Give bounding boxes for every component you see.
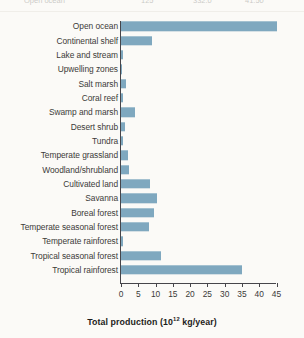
x-axis-title-prefix: Total production (10 — [87, 317, 173, 327]
bar-track — [121, 165, 129, 174]
bar-track — [121, 65, 122, 74]
bar — [121, 208, 154, 217]
bar-track — [121, 108, 135, 117]
bar-track — [121, 194, 157, 203]
bar-row: Cultivated land — [0, 177, 304, 191]
bar — [121, 50, 123, 59]
category-label: Temperate rainforest — [42, 236, 118, 246]
x-axis-tick — [207, 283, 208, 287]
bar-track — [121, 136, 123, 145]
category-label: Woodland/shrubland — [42, 165, 118, 175]
x-axis-tick-label: 25 — [203, 289, 212, 299]
x-axis: 051015202530354045 — [0, 283, 304, 313]
category-label: Temperate seasonal forest — [21, 222, 118, 232]
x-axis-tick-label: 30 — [220, 289, 229, 299]
bar-row: Temperate seasonal forest — [0, 220, 304, 234]
x-axis-tick-label: 35 — [237, 289, 246, 299]
bar-track — [121, 237, 123, 246]
bar — [121, 21, 277, 30]
category-label: Upwelling zones — [58, 64, 118, 74]
bar-row: Savanna — [0, 191, 304, 205]
category-label: Continental shelf — [56, 36, 118, 46]
bar-row: Lake and stream — [0, 48, 304, 62]
bar-track — [121, 36, 152, 45]
bar — [121, 222, 149, 231]
category-label: Desert shrub — [71, 122, 118, 132]
bar — [121, 93, 123, 102]
table-remnant-label: Open ocean — [24, 0, 65, 5]
bar — [121, 136, 123, 145]
table-remnant-value-3: 41.50 — [245, 0, 264, 5]
x-axis-tick-label: 15 — [168, 289, 177, 299]
bar — [121, 122, 125, 131]
bar-row: Continental shelf — [0, 33, 304, 47]
category-label: Temperate grassland — [41, 150, 118, 160]
category-label: Boreal forest — [71, 208, 118, 218]
bar-track — [121, 93, 123, 102]
x-axis-tick — [277, 283, 278, 287]
x-axis-tick — [259, 283, 260, 287]
x-axis-tick — [156, 283, 157, 287]
bar-row: Woodland/shrubland — [0, 162, 304, 176]
bar-chart: Open oceanContinental shelfLake and stre… — [0, 19, 304, 338]
bar-track — [121, 251, 161, 260]
x-axis-tick-label: 20 — [185, 289, 194, 299]
bar-track — [121, 151, 128, 160]
bar-track — [121, 208, 154, 217]
plot-area: Open oceanContinental shelfLake and stre… — [0, 19, 304, 284]
table-remnant-row: Open ocean 125 332.0 41.50 — [0, 0, 304, 11]
bar — [121, 65, 122, 74]
bar-track — [121, 222, 149, 231]
bar — [121, 237, 123, 246]
x-axis-tick — [190, 283, 191, 287]
category-label: Coral reef — [82, 93, 118, 103]
bar — [121, 79, 126, 88]
bar — [121, 36, 152, 45]
bar — [121, 265, 242, 274]
x-axis-title: Total production (1012 kg/year) — [0, 317, 304, 327]
bar-row: Temperate rainforest — [0, 234, 304, 248]
table-remnant-value-2: 332.0 — [193, 0, 212, 5]
category-label: Salt marsh — [78, 79, 118, 89]
x-axis-tick — [242, 283, 243, 287]
bar — [121, 108, 135, 117]
category-label: Open ocean — [73, 21, 118, 31]
bar-rows: Open oceanContinental shelfLake and stre… — [0, 19, 304, 277]
bar-row: Open ocean — [0, 19, 304, 33]
category-label: Tundra — [92, 136, 118, 146]
x-axis-tick — [138, 283, 139, 287]
bar-track — [121, 21, 277, 30]
bar-row: Tropical seasonal forest — [0, 249, 304, 263]
x-axis-line — [120, 283, 276, 284]
x-axis-tick — [173, 283, 174, 287]
bar-track — [121, 122, 125, 131]
x-axis-title-exponent: 12 — [173, 316, 180, 322]
category-label: Savanna — [85, 193, 118, 203]
table-remnant-value-1: 125 — [141, 0, 154, 5]
category-label: Cultivated land — [63, 179, 118, 189]
x-axis-tick-label: 45 — [272, 289, 281, 299]
category-label: Swamp and marsh — [49, 107, 118, 117]
bar-row: Salt marsh — [0, 76, 304, 90]
x-axis-tick — [225, 283, 226, 287]
category-label: Tropical seasonal forest — [31, 251, 118, 261]
bar-row: Swamp and marsh — [0, 105, 304, 119]
bar-track — [121, 179, 150, 188]
x-axis-tick-label: 10 — [151, 289, 160, 299]
x-axis-tick-label: 40 — [255, 289, 264, 299]
bar-track — [121, 265, 242, 274]
bar-track — [121, 50, 123, 59]
bar — [121, 251, 161, 260]
bar — [121, 165, 129, 174]
x-axis-tick — [121, 283, 122, 287]
category-label: Tropical rainforest — [52, 265, 118, 275]
bar-row: Temperate grassland — [0, 148, 304, 162]
bar — [121, 194, 157, 203]
bar — [121, 179, 150, 188]
x-axis-tick-label: 0 — [119, 289, 124, 299]
x-axis-title-suffix: kg/year) — [180, 317, 217, 327]
bar-row: Coral reef — [0, 91, 304, 105]
bar-row: Tundra — [0, 134, 304, 148]
category-label: Lake and stream — [56, 50, 118, 60]
bar-row: Upwelling zones — [0, 62, 304, 76]
